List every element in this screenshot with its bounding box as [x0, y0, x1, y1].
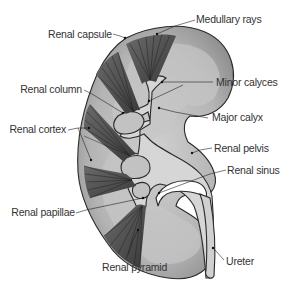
- label-ureter: Ureter: [226, 255, 255, 267]
- label-medullary-rays: Medullary rays: [196, 13, 261, 25]
- label-major-calyx: Major calyx: [212, 111, 264, 123]
- label-renal-cortex: Renal cortex: [9, 123, 66, 135]
- label-renal-sinus: Renal sinus: [227, 164, 280, 176]
- kidney-diagram: Renal capsule Medullary rays Renal colum…: [0, 0, 290, 288]
- label-renal-pyramid: Renal pyramid: [102, 261, 167, 273]
- label-minor-calyces: Minor calyces: [216, 76, 278, 88]
- label-renal-capsule: Renal capsule: [48, 28, 112, 40]
- label-renal-papillae: Renal papillae: [11, 206, 75, 218]
- label-renal-column: Renal column: [20, 83, 82, 95]
- label-renal-pelvis: Renal pelvis: [214, 142, 269, 154]
